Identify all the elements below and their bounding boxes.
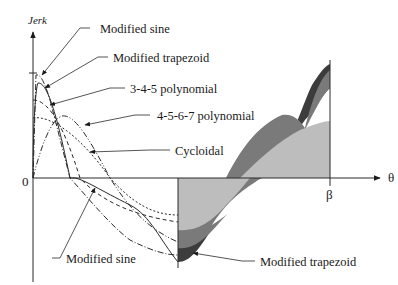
callout-modified-trapezoid-top: Modified trapezoid [113, 51, 210, 65]
callout-345-polynomial: 3-4-5 polynomial [130, 82, 218, 96]
jerk-diagram: Jerk θ 0 β Modified sine Modified trapez… [0, 0, 398, 285]
beta-label: β [326, 187, 333, 202]
curve-cycloidal [33, 118, 178, 215]
callout-modified-sine-bottom: Modified sine [66, 252, 136, 266]
curve-modified-trapezoid [33, 75, 178, 255]
curves [29, 73, 178, 262]
callout-modified-sine-top: Modified sine [100, 22, 170, 36]
x-axis-label: θ [388, 170, 394, 185]
curve-4567 [33, 116, 178, 242]
y-axis-label: Jerk [28, 14, 48, 26]
origin-label: 0 [22, 174, 29, 189]
callout-4567-polynomial: 4-5-6-7 polynomial [157, 109, 255, 123]
callout-cycloidal: Cycloidal [175, 144, 224, 158]
callout-modified-trapezoid-bottom: Modified trapezoid [260, 255, 357, 269]
